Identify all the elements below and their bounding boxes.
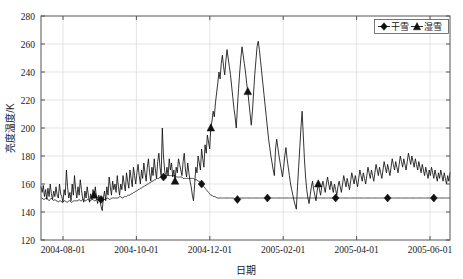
y-axis-title: 亮度温度/K [4, 103, 16, 153]
x-tick-label: 2004-12-01 [188, 245, 233, 255]
y-tick-label: 180 [21, 152, 36, 162]
y-tick-label: 120 [21, 236, 36, 246]
x-tick-label: 2005-02-01 [261, 245, 306, 255]
y-tick-label: 140 [21, 208, 36, 218]
x-tick-label: 2005-04-01 [334, 245, 379, 255]
y-tick-label: 200 [21, 124, 36, 134]
brightness-temperature-time-series-chart: 1201401601802002202402602802004-08-01200… [0, 0, 463, 279]
x-tick-label: 2005-06-01 [408, 245, 453, 255]
y-tick-label: 260 [21, 40, 36, 50]
chart-background [0, 0, 463, 279]
y-tick-label: 160 [21, 180, 36, 190]
y-tick-label: 240 [21, 68, 36, 78]
y-tick-label: 220 [21, 96, 36, 106]
x-tick-label: 2004-08-01 [41, 245, 86, 255]
legend-label-dry-snow: 干雪 [391, 22, 409, 32]
chart-container: 1201401601802002202402602802004-08-01200… [0, 0, 463, 279]
y-tick-label: 280 [21, 12, 36, 22]
x-axis-title: 日期 [236, 265, 256, 276]
legend-label-wet-snow: 湿雪 [424, 22, 442, 32]
legend[interactable]: 干雪 湿雪 [375, 20, 449, 34]
x-tick-label: 2004-10-01 [114, 245, 159, 255]
